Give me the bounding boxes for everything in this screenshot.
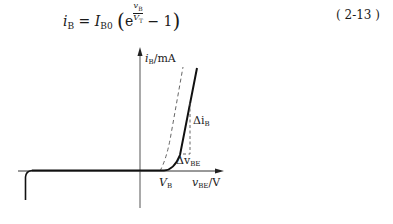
delta-ib-label: ΔiB <box>193 114 210 128</box>
x-axis-arrow-icon <box>215 169 224 174</box>
y-axis-label: iB/mA <box>145 52 177 66</box>
threshold-voltage-label: VB <box>159 176 172 190</box>
iv-characteristic-figure: iB/mA ΔiB ΔvBE VB vBE/V <box>0 0 393 224</box>
delta-vbe-label: ΔvBE <box>176 154 200 168</box>
y-axis-arrow-icon <box>138 47 143 56</box>
breakdown-curve <box>26 171 33 201</box>
input-characteristic-curve <box>32 68 197 171</box>
x-axis-label: vBE/V <box>192 176 221 190</box>
